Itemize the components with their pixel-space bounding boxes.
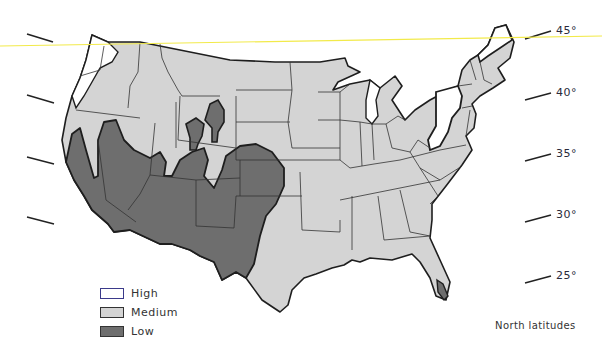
legend-label-high: High [131,287,158,300]
legend: High Medium Low [100,285,178,342]
map-caption: North latitudes [495,320,576,331]
legend-swatch-medium [100,307,124,318]
legend-item-low: Low [100,323,178,340]
right-latitude-ticks [525,31,551,283]
latitude-label-45: 45° [556,24,577,37]
latitude-label-30: 30° [556,208,577,221]
latitude-label-25: 25° [556,269,577,282]
latitude-label-35: 35° [556,147,577,160]
us-map [0,0,602,355]
legend-swatch-low [100,326,124,337]
latitude-label-40: 40° [556,86,577,99]
legend-label-medium: Medium [131,306,178,319]
legend-swatch-high [100,288,124,299]
left-latitude-ticks [27,34,54,224]
legend-item-medium: Medium [100,304,178,321]
legend-label-low: Low [131,325,154,338]
legend-item-high: High [100,285,178,302]
